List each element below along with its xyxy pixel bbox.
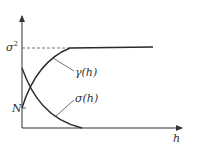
sigma-label: σ(h) [75, 93, 98, 104]
gamma-label: γ(h) [75, 67, 97, 78]
sigma-curve [22, 68, 82, 128]
nugget-label: N [12, 103, 22, 114]
sigma-leader-line [56, 100, 74, 116]
variogram-chart [0, 0, 197, 150]
gamma-leader-line [53, 58, 74, 71]
sill-label: σ2 [6, 41, 18, 53]
x-axis-label: h [173, 133, 180, 144]
